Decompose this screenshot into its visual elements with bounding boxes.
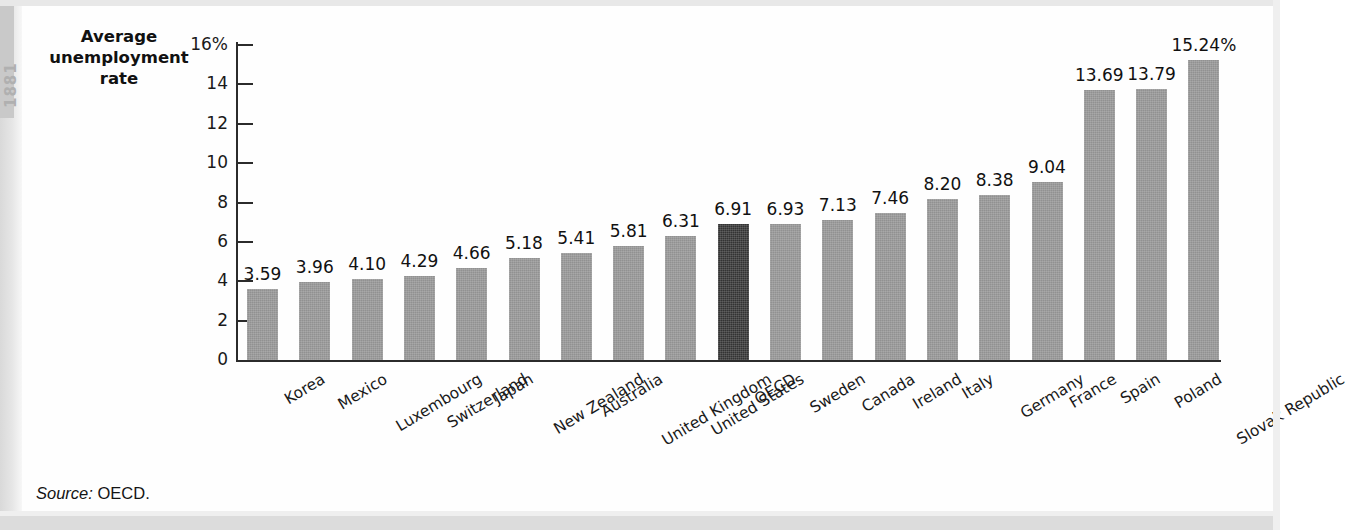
bar-value-label: 13.79: [1112, 64, 1192, 84]
bar-texture: [456, 268, 487, 360]
y-axis-tick: [238, 202, 253, 204]
y-axis-tick-label: 16%: [168, 34, 228, 54]
bar-slovak-republic[interactable]: [1188, 60, 1219, 360]
bar-france[interactable]: [1032, 182, 1063, 360]
bar-mexico[interactable]: [299, 282, 330, 360]
x-axis-label-poland: Poland: [1171, 370, 1225, 412]
bar-texture: [352, 279, 383, 360]
bar-italy[interactable]: [927, 199, 958, 360]
bar-oecd[interactable]: [718, 224, 749, 360]
figure-right-border: [1273, 0, 1280, 530]
y-axis-tick: [238, 83, 253, 85]
bar-korea[interactable]: [247, 289, 278, 360]
bar-switzerland[interactable]: [404, 276, 435, 360]
bar-texture: [1084, 90, 1115, 360]
figure-bottom-border: [0, 516, 1280, 530]
y-axis-tick-label: 6: [168, 231, 228, 251]
bar-spain[interactable]: [1084, 90, 1115, 360]
bar-texture: [1188, 60, 1219, 360]
x-axis-label-canada: Canada: [858, 370, 918, 416]
bar-australia[interactable]: [561, 253, 592, 360]
y-axis-tick-label: 10: [168, 152, 228, 172]
source-value: OECD.: [97, 484, 149, 502]
bar-texture: [665, 236, 696, 360]
x-axis-label-spain: Spain: [1117, 370, 1163, 408]
x-axis-label-sweden: Sweden: [806, 370, 868, 417]
bar-united-kingdom[interactable]: [613, 246, 644, 360]
bar-germany[interactable]: [979, 195, 1010, 360]
bar-luxembourg[interactable]: [352, 279, 383, 360]
y-axis-tick-label: 14: [168, 73, 228, 93]
y-axis-tick: [238, 123, 253, 125]
bar-texture: [509, 258, 540, 360]
bar-value-label: 9.04: [1007, 157, 1087, 177]
x-axis-label-mexico: Mexico: [335, 370, 391, 413]
bar-texture: [404, 276, 435, 360]
y-axis-tick-label: 0: [168, 349, 228, 369]
bar-texture: [613, 246, 644, 360]
bar-texture: [1136, 89, 1167, 360]
source-note: Source: OECD.: [36, 484, 150, 503]
bar-poland[interactable]: [1136, 89, 1167, 360]
bar-texture: [718, 224, 749, 360]
bar-sweden[interactable]: [770, 224, 801, 360]
bar-texture: [875, 213, 906, 360]
y-axis-tick-label: 2: [168, 310, 228, 330]
y-axis-tick: [238, 162, 253, 164]
x-axis-label-italy: Italy: [959, 370, 997, 403]
bar-texture: [927, 199, 958, 360]
bar-ireland[interactable]: [875, 213, 906, 360]
y-axis-tick-label: 12: [168, 113, 228, 133]
bar-new-zealand[interactable]: [509, 258, 540, 360]
bar-united-states[interactable]: [665, 236, 696, 360]
bar-texture: [299, 282, 330, 360]
y-axis-tick: [238, 241, 253, 243]
bar-texture: [770, 224, 801, 360]
x-axis-label-ireland: Ireland: [910, 370, 965, 413]
bar-canada[interactable]: [822, 220, 853, 360]
y-axis-tick-label: 4: [168, 270, 228, 290]
x-axis-label-slovak-republic: Slovak Republic: [1233, 370, 1347, 448]
bar-japan[interactable]: [456, 268, 487, 360]
bar-texture: [561, 253, 592, 360]
bar-value-label: 15.24%: [1164, 35, 1244, 55]
source-label: Source:: [36, 484, 93, 502]
y-axis-tick: [238, 44, 253, 46]
x-axis-label-korea: Korea: [281, 370, 328, 408]
bar-texture: [822, 220, 853, 360]
bar-texture: [979, 195, 1010, 360]
y-axis-tick-label: 8: [168, 192, 228, 212]
x-axis-line: [236, 360, 1221, 362]
bar-texture: [1032, 182, 1063, 360]
bar-texture: [247, 289, 278, 360]
